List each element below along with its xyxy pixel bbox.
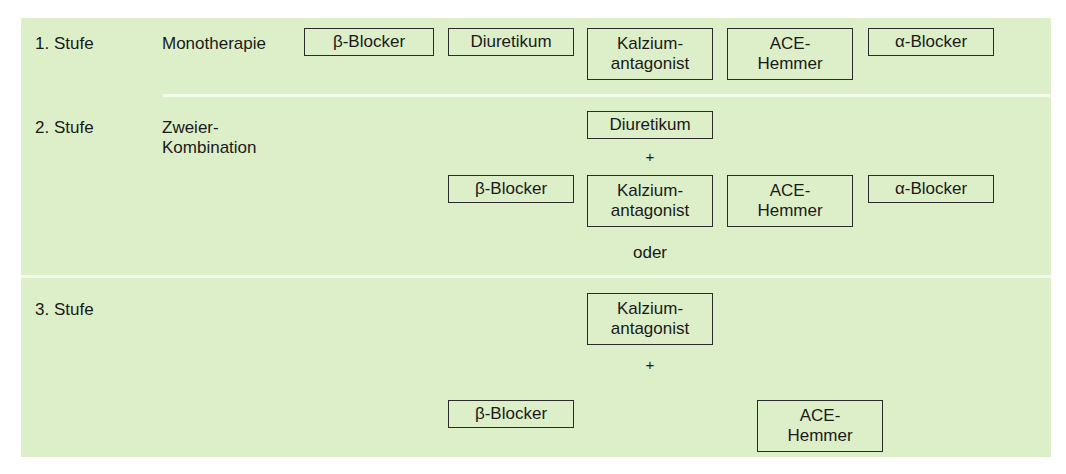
- clipped-caption: [22, 0, 782, 5]
- stage-2-box-beta-blocker: β-Blocker: [448, 175, 574, 203]
- stage-1-label: 1. Stufe: [35, 34, 94, 54]
- stage-divider-1: [163, 94, 1051, 97]
- stage-2-box-kalziumantagonist: Kalzium- antagonist: [587, 175, 713, 227]
- stage-3-label: 3. Stufe: [35, 300, 94, 320]
- stage-2-box-diuretikum: Diuretikum: [587, 111, 713, 139]
- stage-1-box-kalziumantagonist: Kalzium- antagonist: [587, 28, 713, 80]
- stage-2-sublabel: Zweier- Kombination: [162, 118, 257, 158]
- stage-2-oder: oder: [620, 244, 680, 262]
- stage-1-box-alpha-blocker: α-Blocker: [868, 28, 994, 56]
- stage-2-plus: +: [630, 148, 670, 166]
- stage-divider-2: [21, 275, 1051, 278]
- stage-3-box-ace-hemmer: ACE- Hemmer: [757, 400, 883, 452]
- stage-2-label: 2. Stufe: [35, 118, 94, 138]
- stage-1-box-ace-hemmer: ACE- Hemmer: [727, 28, 853, 80]
- stage-1-sublabel: Monotherapie: [162, 34, 266, 54]
- stage-1-box-beta-blocker: β-Blocker: [304, 28, 434, 56]
- stage-3-box-beta-blocker: β-Blocker: [448, 400, 574, 428]
- therapy-scheme-panel: 1. Stufe Monotherapie β-Blocker Diuretik…: [21, 18, 1051, 457]
- stage-2-box-alpha-blocker: α-Blocker: [868, 175, 994, 203]
- stage-3-plus: +: [630, 356, 670, 374]
- stage-2-box-ace-hemmer: ACE- Hemmer: [727, 175, 853, 227]
- stage-3-box-kalziumantagonist: Kalzium- antagonist: [587, 293, 713, 345]
- stage-1-box-diuretikum: Diuretikum: [448, 28, 574, 56]
